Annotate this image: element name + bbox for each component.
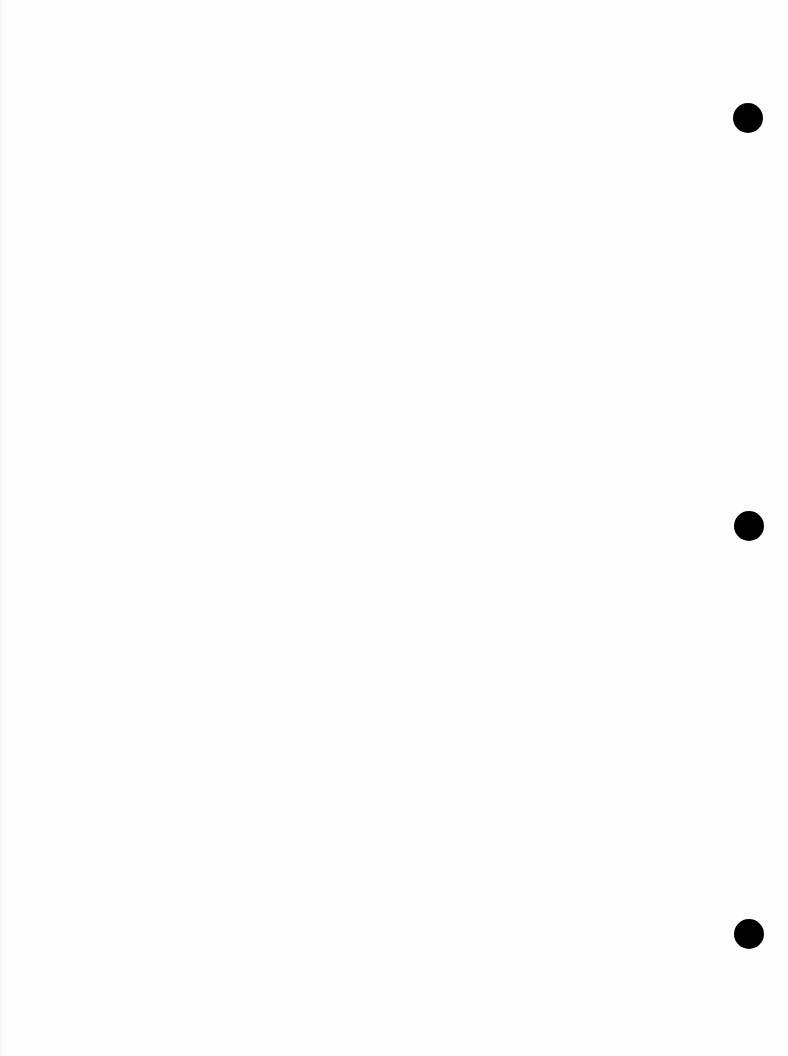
punch-hole-bottom-icon	[734, 919, 764, 949]
punch-hole-middle-icon	[734, 511, 764, 541]
punch-hole-top-icon	[733, 103, 763, 133]
blank-page	[0, 0, 788, 1056]
page-edge-shadow	[0, 0, 3, 1056]
